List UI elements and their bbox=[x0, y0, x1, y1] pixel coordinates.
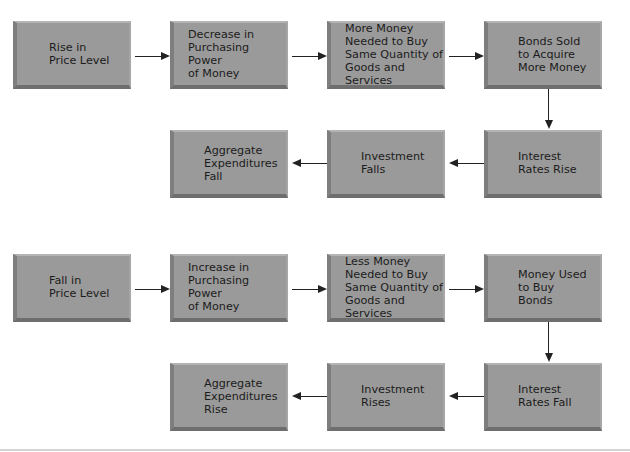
arrow-line bbox=[548, 322, 549, 354]
node-label: Fall in Price Level bbox=[17, 274, 109, 300]
arrow-line bbox=[449, 289, 476, 290]
node-increase-in-purchasing-power: Increase in Purchasing Power of Money bbox=[170, 254, 288, 322]
bottom-divider bbox=[0, 449, 630, 451]
node-label: Interest Rates Fall bbox=[488, 383, 572, 409]
node-aggregate-expenditures-fall: Aggregate Expenditures Fall bbox=[170, 130, 288, 198]
arrow-left-icon bbox=[292, 159, 301, 167]
arrow-line bbox=[292, 289, 319, 290]
arrow-line bbox=[457, 163, 484, 164]
node-rise-in-price-level: Rise in Price Level bbox=[13, 21, 131, 89]
node-label: Increase in Purchasing Power of Money bbox=[174, 261, 286, 313]
node-label: Aggregate Expenditures Fall bbox=[174, 144, 278, 183]
arrow-right-icon bbox=[161, 285, 170, 293]
arrow-left-icon bbox=[449, 392, 458, 400]
node-decrease-in-purchasing-power: Decrease in Purchasing Power of Money bbox=[170, 21, 288, 89]
arrow-line bbox=[135, 56, 162, 57]
arrow-down-icon bbox=[545, 120, 553, 129]
arrow-right-icon bbox=[318, 52, 327, 60]
node-label: Aggregate Expenditures Rise bbox=[174, 377, 278, 416]
node-label: Money Used to Buy Bonds bbox=[488, 268, 587, 307]
arrow-line bbox=[292, 56, 319, 57]
node-more-money-needed: More Money Needed to Buy Same Quantity o… bbox=[327, 21, 445, 89]
arrow-line bbox=[449, 56, 476, 57]
node-label: Investment Falls bbox=[331, 150, 424, 176]
node-label: Interest Rates Rise bbox=[488, 150, 577, 176]
arrow-left-icon bbox=[292, 392, 301, 400]
node-label: Less Money Needed to Buy Same Quantity o… bbox=[331, 255, 443, 320]
node-interest-rates-rise: Interest Rates Rise bbox=[484, 130, 602, 198]
node-label: Investment Rises bbox=[331, 383, 424, 409]
node-label: Bonds Sold to Acquire More Money bbox=[488, 35, 586, 74]
arrow-right-icon bbox=[475, 52, 484, 60]
node-money-used-to-buy-bonds: Money Used to Buy Bonds bbox=[484, 254, 602, 322]
arrow-right-icon bbox=[161, 52, 170, 60]
node-bonds-sold: Bonds Sold to Acquire More Money bbox=[484, 21, 602, 89]
arrow-line bbox=[300, 396, 327, 397]
arrow-line bbox=[457, 396, 484, 397]
arrow-line bbox=[548, 89, 549, 121]
node-fall-in-price-level: Fall in Price Level bbox=[13, 254, 131, 322]
node-label: Rise in Price Level bbox=[17, 41, 109, 67]
node-investment-falls: Investment Falls bbox=[327, 130, 445, 198]
node-investment-rises: Investment Rises bbox=[327, 363, 445, 431]
arrow-down-icon bbox=[545, 353, 553, 362]
node-less-money-needed: Less Money Needed to Buy Same Quantity o… bbox=[327, 254, 445, 322]
arrow-line bbox=[300, 163, 327, 164]
node-label: More Money Needed to Buy Same Quantity o… bbox=[331, 22, 443, 87]
node-aggregate-expenditures-rise: Aggregate Expenditures Rise bbox=[170, 363, 288, 431]
arrow-left-icon bbox=[449, 159, 458, 167]
arrow-right-icon bbox=[318, 285, 327, 293]
node-interest-rates-fall: Interest Rates Fall bbox=[484, 363, 602, 431]
arrow-line bbox=[135, 289, 162, 290]
arrow-right-icon bbox=[475, 285, 484, 293]
node-label: Decrease in Purchasing Power of Money bbox=[174, 28, 286, 80]
